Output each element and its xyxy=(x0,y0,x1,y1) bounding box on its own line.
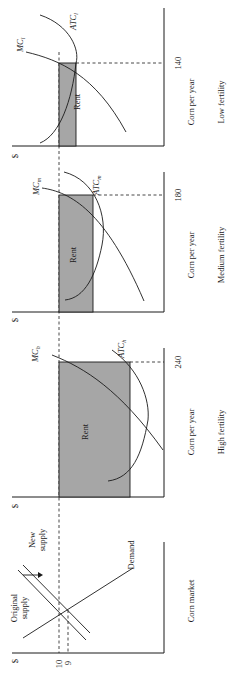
high-currency-symbol: $ xyxy=(10,504,20,508)
svg-text:MCm: MCm xyxy=(31,177,42,196)
medium-currency-symbol: $ xyxy=(10,318,20,322)
high-mc-label: MCh xyxy=(30,346,41,363)
original-supply-label-line2: supply xyxy=(19,596,29,619)
low-x-label: Corn per year xyxy=(186,78,196,125)
high-rent-label: Rent xyxy=(80,423,90,440)
svg-text:ATCh: ATCh xyxy=(116,340,127,359)
medium-x-label: Corn per year xyxy=(186,231,196,278)
medium-quantity-value: 180 xyxy=(173,189,183,202)
low-currency-symbol: $ xyxy=(10,154,20,158)
high-atc-label: ATCh xyxy=(116,340,127,359)
low-rent-label: Rent xyxy=(72,93,82,110)
demand-curve xyxy=(23,568,133,638)
original-supply-label-line1: Original xyxy=(9,593,19,622)
new-supply-label-line2: supply xyxy=(37,528,47,551)
low-atc-label: ATCl xyxy=(68,13,79,31)
ricardian-rent-diagram: Rent MCl ATCl 140 Corn per year Low fert… xyxy=(0,0,233,678)
svg-text:MCl: MCl xyxy=(15,37,26,53)
panel-high-fertility: Rent MCh ATCh 240 Corn per year High fer… xyxy=(10,340,226,508)
new-supply-label-line1: New xyxy=(27,531,37,548)
high-rent-area xyxy=(59,362,130,497)
svg-text:MCh: MCh xyxy=(30,346,41,363)
high-x-label: Corn per year xyxy=(186,408,196,455)
low-panel-title: Low fertility xyxy=(216,80,226,124)
svg-text:ATCl: ATCl xyxy=(68,13,79,31)
panel-low-fertility: Rent MCl ATCl 140 Corn per year Low fert… xyxy=(10,8,226,158)
market-currency-symbol: $ xyxy=(10,659,20,663)
high-panel-title: High fertility xyxy=(216,409,226,454)
medium-panel-title: Medium fertility xyxy=(216,226,226,283)
panel-medium-fertility: Rent MCm ATCm 180 Corn per year Medium f… xyxy=(10,172,226,322)
panel-corn-market: Original supply New supply Demand Corn m… xyxy=(9,528,196,668)
medium-rent-label: Rent xyxy=(68,246,78,263)
medium-mc-label: MCm xyxy=(31,177,42,196)
low-mc-label: MCl xyxy=(15,37,26,53)
price-label-9: 9 xyxy=(63,661,73,665)
market-title: Corn market xyxy=(186,579,196,622)
arrow-head-icon xyxy=(38,572,43,578)
low-quantity-value: 140 xyxy=(173,57,183,70)
high-quantity-value: 240 xyxy=(173,356,183,369)
demand-label: Demand xyxy=(126,540,136,570)
medium-atc-label: ATCm xyxy=(91,175,102,196)
svg-text:ATCm: ATCm xyxy=(91,175,102,196)
